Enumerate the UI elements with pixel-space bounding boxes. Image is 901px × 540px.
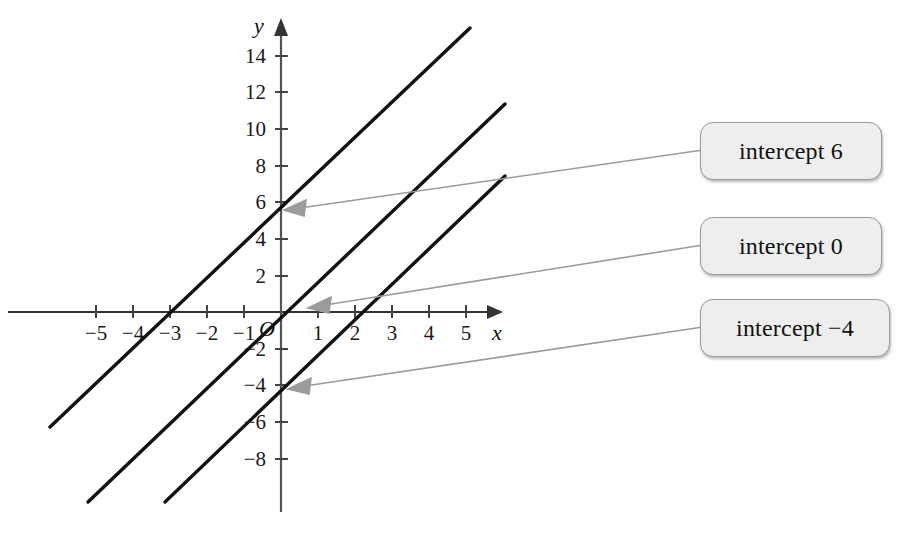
callout-label: intercept 6 [739, 138, 843, 165]
x-tick-label: 1 [313, 321, 324, 345]
y-tick-label: 6 [256, 190, 267, 214]
callout-intercept-minus-4[interactable]: intercept −4 [700, 299, 890, 357]
callout-label: intercept 0 [739, 233, 843, 260]
leader-line-intercept-0 [325, 245, 703, 305]
leader-arrowhead-intercept-0 [308, 297, 331, 313]
x-tick-label: −3 [159, 321, 181, 345]
y-axis-label: y [252, 13, 264, 38]
x-axis-arrowhead [487, 305, 503, 319]
x-axis-label: x [491, 320, 502, 345]
callout-intercept-6[interactable]: intercept 6 [700, 122, 882, 180]
x-tick-label: 5 [461, 321, 472, 345]
x-tick-labels-group: −5 −4 −3 −2 −1 1 2 3 4 5 [85, 321, 471, 345]
y-axis-arrowhead [274, 18, 288, 36]
x-tick-label: −5 [85, 321, 107, 345]
y-tick-label: 8 [256, 154, 267, 178]
x-tick-label: 3 [387, 321, 398, 345]
callout-label: intercept −4 [736, 315, 854, 342]
y-tick-label: 2 [256, 264, 267, 288]
y-tick-label: 12 [245, 80, 266, 104]
y-tick-label: −4 [244, 373, 267, 397]
data-lines-group [50, 28, 505, 502]
x-tick-label: 4 [424, 321, 435, 345]
leader-line-intercept-6 [300, 150, 703, 208]
line-intercept-0 [88, 104, 505, 502]
y-tick-label: 10 [245, 117, 266, 141]
x-tick-label: −2 [196, 321, 218, 345]
y-tick-label: −8 [244, 447, 266, 471]
leader-line-intercept-minus-4 [305, 327, 703, 386]
figure-canvas: −5 −4 −3 −2 −1 1 2 3 4 5 −8 −6 −4 −2 2 4… [0, 0, 901, 540]
callout-intercept-0[interactable]: intercept 0 [700, 217, 882, 275]
y-tick-label: 14 [245, 44, 267, 68]
